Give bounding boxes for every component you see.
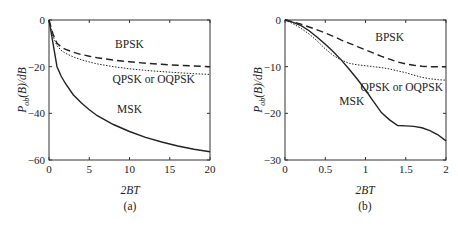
x-axis-title: 2BT [355,184,376,196]
series-label: BPSK [375,31,404,43]
x-tick-label: 0.5 [318,163,332,175]
y-tick-label: −40 [28,107,46,119]
x-tick-label: 5 [87,163,93,175]
panel-caption: (b) [358,200,372,213]
y-tick-label: −20 [264,107,282,119]
series-label: MSK [339,95,365,107]
x-axis-title: 2BT [120,184,141,196]
y-tick-label: −60 [28,154,46,166]
x-tick-label: 0 [282,163,288,175]
x-tick-label: 20 [205,163,217,175]
series-label: BPSK [115,38,144,50]
series-bpsk [285,20,446,67]
y-tick-label: 0 [40,14,46,26]
y-tick-label: 0 [276,14,282,26]
series-label: QPSK or OQPSK [112,73,195,85]
y-tick-label: −10 [264,61,282,73]
series-label: QPSK or OQPSK [361,81,444,93]
y-tick-label: −20 [28,61,46,73]
x-tick-label: 2 [443,163,449,175]
x-tick-label: 1 [363,163,369,175]
x-tick-label: 10 [124,163,136,175]
chart-panel-b: 00.511.520−10−20−30BPSKQPSK or OQPSKMSKP… [252,14,449,213]
x-tick-label: 0 [46,163,52,175]
series-label: MSK [117,103,143,115]
series-qpsk-or-oqpsk [285,20,446,80]
x-tick-label: 15 [164,163,176,175]
chart-panel-a: 051015200−20−40−60BPSKQPSK or OQPSKMSKPo… [16,14,216,213]
y-tick-label: −30 [264,154,282,166]
x-tick-label: 1.5 [399,163,413,175]
panel-caption: (a) [124,200,137,213]
figure: 051015200−20−40−60BPSKQPSK or OQPSKMSKPo… [0,0,458,227]
